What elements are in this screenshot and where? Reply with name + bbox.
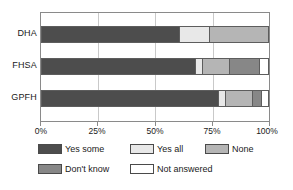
chart-legend: Yes some Yes all None Don't know Not ans… bbox=[34, 142, 284, 184]
bar-row-dha bbox=[41, 26, 269, 43]
legend-swatch-dont-know bbox=[38, 164, 62, 174]
legend-item-dont-know: Don't know bbox=[38, 162, 109, 175]
legend-row-1: Yes some Yes all None bbox=[34, 142, 284, 155]
segment-gpfh-yes-some bbox=[41, 90, 219, 107]
segment-dha-yes-some bbox=[41, 26, 180, 43]
segment-fhsa-dont-know bbox=[230, 58, 260, 75]
y-axis-label-gpfh: GPFH bbox=[1, 92, 37, 102]
segment-fhsa-not-answered bbox=[260, 58, 269, 75]
plot-area bbox=[40, 12, 270, 122]
legend-item-not-answered: Not answered bbox=[130, 162, 213, 175]
segment-fhsa-yes-some bbox=[41, 58, 196, 75]
bar-row-gpfh bbox=[41, 90, 269, 107]
x-axis-label-25: 25% bbox=[88, 126, 105, 136]
segment-dha-yes-all bbox=[180, 26, 210, 43]
legend-swatch-yes-some bbox=[38, 144, 62, 154]
legend-label-dont-know: Don't know bbox=[65, 164, 109, 174]
legend-item-yes-some: Yes some bbox=[38, 142, 104, 155]
x-axis-label-0: 0% bbox=[35, 126, 47, 136]
legend-item-yes-all: Yes all bbox=[130, 142, 183, 155]
segment-fhsa-none bbox=[203, 58, 230, 75]
y-axis-labels: DHA FHSA GPFH bbox=[0, 12, 37, 122]
segment-gpfh-not-answered bbox=[262, 90, 269, 107]
segment-gpfh-dont-know bbox=[253, 90, 262, 107]
legend-row-2: Don't know Not answered bbox=[34, 162, 284, 175]
segment-gpfh-none bbox=[226, 90, 253, 107]
y-axis-label-fhsa: FHSA bbox=[1, 60, 37, 70]
legend-item-none: None bbox=[205, 142, 254, 155]
legend-label-yes-all: Yes all bbox=[157, 144, 183, 154]
legend-label-yes-some: Yes some bbox=[65, 144, 104, 154]
legend-swatch-yes-all bbox=[130, 144, 154, 154]
x-axis-label-100: 100% bbox=[256, 126, 278, 136]
segment-dha-none bbox=[210, 26, 269, 43]
bar-row-fhsa bbox=[41, 58, 269, 75]
segment-gpfh-yes-all bbox=[219, 90, 226, 107]
x-axis-label-75: 75% bbox=[203, 126, 220, 136]
legend-label-none: None bbox=[232, 144, 254, 154]
segment-fhsa-yes-all bbox=[196, 58, 203, 75]
y-axis-label-dha: DHA bbox=[1, 28, 37, 38]
legend-swatch-not-answered bbox=[130, 164, 154, 174]
legend-label-not-answered: Not answered bbox=[157, 164, 213, 174]
x-axis-label-50: 50% bbox=[146, 126, 163, 136]
stacked-bar-chart: DHA FHSA GPFH bbox=[0, 0, 293, 190]
legend-swatch-none bbox=[205, 144, 229, 154]
